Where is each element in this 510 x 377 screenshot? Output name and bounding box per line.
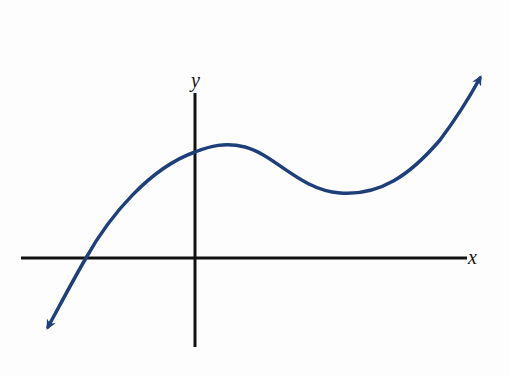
x-axis-label: x xyxy=(468,247,477,267)
function-graph xyxy=(0,0,510,377)
y-axis-label: y xyxy=(191,70,200,90)
function-curve xyxy=(48,78,480,327)
